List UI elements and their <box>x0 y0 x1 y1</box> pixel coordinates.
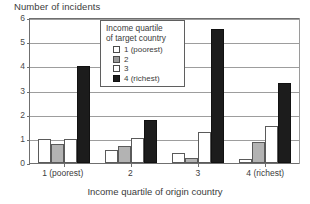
ytick-label-2: 2 <box>3 110 25 120</box>
legend-swatch-q3-icon <box>113 65 120 72</box>
legend-swatch-q4-icon <box>113 75 120 82</box>
bar-g3-q3 <box>198 132 211 163</box>
legend-label-1: 1 (poorest) <box>124 45 163 54</box>
xlabel-4: 4 (richest) <box>232 168 300 178</box>
bar-chart: Number of incidents <box>0 0 310 204</box>
legend-item-4: 4 (richest) <box>113 74 180 83</box>
bar-g1-q1 <box>38 139 51 163</box>
legend-item-2: 2 <box>113 55 180 64</box>
bar-group-4 <box>232 19 299 163</box>
bar-g1-q3 <box>64 139 77 163</box>
ytick-label-5: 5 <box>3 37 25 47</box>
legend-label-4: 4 (richest) <box>124 74 160 83</box>
legend: Income quartile of target country 1 (poo… <box>100 20 185 87</box>
legend-title: Income quartile of target country <box>106 24 180 43</box>
xlabel-1: 1 (poorest) <box>29 168 97 178</box>
bar-g1-q2 <box>51 144 64 163</box>
bar-g2-q3 <box>131 138 144 163</box>
x-axis-title: Income quartile of origin country <box>0 186 310 197</box>
xlabel-3: 3 <box>164 168 232 178</box>
ytick-label-1: 1 <box>3 134 25 144</box>
legend-swatch-q2-icon <box>113 56 120 63</box>
x-axis-line <box>29 163 300 164</box>
y-axis-title: Number of incidents <box>14 1 100 12</box>
plot-right-border <box>299 18 300 164</box>
legend-label-2: 2 <box>124 55 128 64</box>
ytick-label-4: 4 <box>3 61 25 71</box>
bar-g4-q2 <box>252 142 265 163</box>
bar-g2-q2 <box>118 146 131 163</box>
ytick-label-3: 3 <box>3 86 25 96</box>
ytick-label-6: 6 <box>3 13 25 23</box>
legend-swatch-q1-icon <box>113 46 120 53</box>
bar-g3-q4 <box>211 29 224 163</box>
xlabel-2: 2 <box>97 168 165 178</box>
bar-group-1 <box>30 19 97 163</box>
bar-g1-q4 <box>77 66 90 163</box>
ytick-label-0: 0 <box>3 158 25 168</box>
bar-g4-q4 <box>278 83 291 163</box>
legend-title-line-2: of target country <box>106 34 180 44</box>
legend-item-1: 1 (poorest) <box>113 45 180 54</box>
bar-g4-q3 <box>265 126 278 163</box>
legend-item-3: 3 <box>113 64 180 73</box>
bar-g3-q1 <box>172 153 185 163</box>
ytick-mark-0 <box>27 164 30 165</box>
bar-g2-q4 <box>144 120 157 164</box>
bar-g2-q1 <box>105 150 118 163</box>
legend-label-3: 3 <box>124 64 128 73</box>
